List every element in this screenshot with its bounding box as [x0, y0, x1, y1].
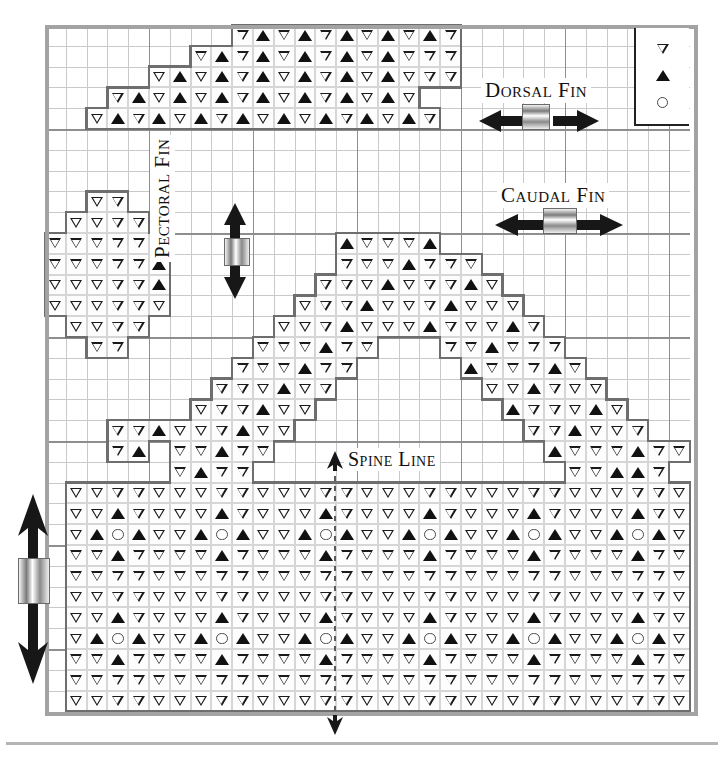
stitch-cell[interactable]: [378, 607, 399, 628]
stitch-cell[interactable]: [87, 566, 108, 587]
stitch-cell[interactable]: [669, 607, 690, 628]
stitch-cell[interactable]: [107, 337, 128, 358]
stitch-cell[interactable]: [295, 566, 316, 587]
stitch-cell[interactable]: [503, 483, 524, 504]
stitch-cell[interactable]: [274, 670, 295, 691]
stitch-cell[interactable]: [295, 524, 316, 545]
stitch-cell[interactable]: [253, 607, 274, 628]
stitch-cell[interactable]: [607, 399, 628, 420]
stitch-cell[interactable]: [336, 358, 357, 379]
stitch-cell[interactable]: [648, 483, 669, 504]
stitch-cell[interactable]: [274, 337, 295, 358]
stitch-cell[interactable]: [295, 67, 316, 88]
stitch-cell[interactable]: [295, 587, 316, 608]
stitch-cell[interactable]: [357, 87, 378, 108]
stitch-cell[interactable]: [669, 587, 690, 608]
stitch-cell[interactable]: [87, 212, 108, 233]
stitch-cell[interactable]: [357, 295, 378, 316]
stitch-cell[interactable]: [315, 67, 336, 88]
stitch-cell[interactable]: [66, 566, 87, 587]
stitch-cell[interactable]: [378, 628, 399, 649]
stitch-cell[interactable]: [565, 462, 586, 483]
stitch-cell[interactable]: [211, 628, 232, 649]
stitch-cell[interactable]: [295, 649, 316, 670]
stitch-cell[interactable]: [170, 628, 191, 649]
stitch-cell[interactable]: [149, 545, 170, 566]
stitch-cell[interactable]: [586, 649, 607, 670]
stitch-cell[interactable]: [378, 275, 399, 296]
stitch-cell[interactable]: [107, 87, 128, 108]
stitch-cell[interactable]: [503, 295, 524, 316]
stitch-cell[interactable]: [336, 295, 357, 316]
stitch-cell[interactable]: [128, 254, 149, 275]
stitch-cell[interactable]: [274, 87, 295, 108]
stitch-cell[interactable]: [503, 316, 524, 337]
stitch-cell[interactable]: [440, 295, 461, 316]
stitch-cell[interactable]: [336, 87, 357, 108]
stitch-cell[interactable]: [482, 670, 503, 691]
stitch-cell[interactable]: [336, 316, 357, 337]
stitch-cell[interactable]: [503, 566, 524, 587]
stitch-cell[interactable]: [627, 628, 648, 649]
stitch-cell[interactable]: [544, 483, 565, 504]
stitch-cell[interactable]: [523, 337, 544, 358]
stitch-cell[interactable]: [378, 649, 399, 670]
stitch-cell[interactable]: [544, 358, 565, 379]
stitch-cell[interactable]: [66, 316, 87, 337]
stitch-cell[interactable]: [191, 587, 212, 608]
stitch-cell[interactable]: [440, 503, 461, 524]
stitch-cell[interactable]: [295, 691, 316, 712]
stitch-cell[interactable]: [461, 524, 482, 545]
stitch-cell[interactable]: [461, 316, 482, 337]
stitch-cell[interactable]: [232, 108, 253, 129]
stitch-cell[interactable]: [378, 316, 399, 337]
stitch-cell[interactable]: [149, 670, 170, 691]
stitch-cell[interactable]: [586, 379, 607, 400]
stitch-cell[interactable]: [440, 649, 461, 670]
stitch-cell[interactable]: [419, 566, 440, 587]
stitch-cell[interactable]: [461, 670, 482, 691]
stitch-cell[interactable]: [648, 607, 669, 628]
stitch-cell[interactable]: [336, 587, 357, 608]
stitch-cell[interactable]: [45, 275, 66, 296]
stitch-cell[interactable]: [461, 566, 482, 587]
stitch-cell[interactable]: [565, 358, 586, 379]
stitch-cell[interactable]: [503, 545, 524, 566]
stitch-cell[interactable]: [378, 87, 399, 108]
stitch-cell[interactable]: [149, 295, 170, 316]
stitch-cell[interactable]: [191, 566, 212, 587]
stitch-cell[interactable]: [357, 483, 378, 504]
stitch-cell[interactable]: [107, 628, 128, 649]
stitch-cell[interactable]: [399, 25, 420, 46]
stitch-cell[interactable]: [232, 545, 253, 566]
stitch-cell[interactable]: [149, 503, 170, 524]
stitch-cell[interactable]: [170, 441, 191, 462]
stitch-cell[interactable]: [45, 254, 66, 275]
stitch-cell[interactable]: [336, 254, 357, 275]
stitch-cell[interactable]: [627, 441, 648, 462]
stitch-cell[interactable]: [107, 233, 128, 254]
stitch-cell[interactable]: [87, 295, 108, 316]
stitch-cell[interactable]: [419, 46, 440, 67]
stitch-cell[interactable]: [336, 233, 357, 254]
stitch-cell[interactable]: [66, 545, 87, 566]
stitch-cell[interactable]: [128, 628, 149, 649]
stitch-cell[interactable]: [607, 503, 628, 524]
stitch-cell[interactable]: [274, 358, 295, 379]
stitch-cell[interactable]: [295, 316, 316, 337]
stitch-cell[interactable]: [87, 628, 108, 649]
stitch-cell[interactable]: [627, 524, 648, 545]
stitch-cell[interactable]: [440, 275, 461, 296]
stitch-cell[interactable]: [565, 483, 586, 504]
stitch-cell[interactable]: [461, 587, 482, 608]
stitch-cell[interactable]: [357, 67, 378, 88]
stitch-cell[interactable]: [253, 379, 274, 400]
stitch-cell[interactable]: [440, 254, 461, 275]
stitch-cell[interactable]: [149, 420, 170, 441]
stitch-cell[interactable]: [357, 545, 378, 566]
stitch-cell[interactable]: [378, 566, 399, 587]
stitch-cell[interactable]: [357, 25, 378, 46]
stitch-cell[interactable]: [419, 25, 440, 46]
stitch-cell[interactable]: [149, 87, 170, 108]
stitch-cell[interactable]: [170, 108, 191, 129]
